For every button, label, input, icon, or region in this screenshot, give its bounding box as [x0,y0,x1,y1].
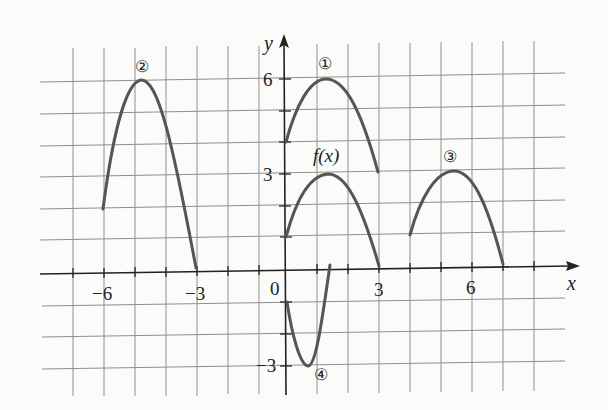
y-tick-label-3: 3 [263,164,273,185]
curve-label-1: ① [318,55,332,72]
y-axis [284,42,286,395]
grid [40,41,565,396]
curves [103,79,503,366]
function-graph: −6 −3 0 3 6 x y 6 3 −3 f(x) ① ② ③ ④ [0,0,608,410]
curve-3 [410,171,503,264]
x-tick-label-neg3: −3 [185,283,205,304]
curve-label-fx: f(x) [313,145,339,167]
tick-marks [73,79,534,366]
x-axis-label: x [566,272,576,294]
x-axis-arrow-icon [566,261,580,271]
curve-label-2: ② [135,58,149,75]
curve-fx [286,174,379,266]
curve-4 [287,265,330,366]
x-tick-label-6: 6 [466,277,476,298]
x-tick-label-3: 3 [374,279,384,300]
x-axis [40,266,570,274]
y-axis-label: y [262,32,273,55]
curve-label-4: ④ [314,366,328,383]
curve-2 [103,80,196,268]
curve-label-3: ③ [443,148,457,165]
x-tick-label-neg6: −6 [92,283,112,304]
y-tick-label-6: 6 [263,69,273,90]
y-tick-label-neg3: −3 [256,355,276,376]
origin-label: 0 [270,278,280,299]
